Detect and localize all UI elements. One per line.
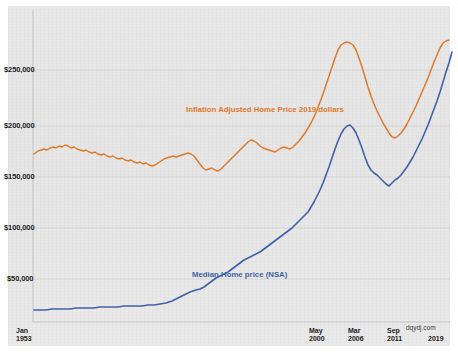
x-tick-jan-month: Jan [16, 327, 32, 335]
series-label-inflation-line2: 2019 dollars [299, 105, 344, 114]
y-tick-100000: $100,000 [4, 223, 34, 232]
chart-svg [0, 0, 458, 352]
x-tick-mar-2006: Mar 2006 [348, 327, 364, 343]
series-label-inflation-line1: Inflation Adjusted Home Price [186, 105, 297, 114]
series-label-median-home-price: Median Home price (NSA) [192, 270, 287, 280]
watermark-dqydj: dqydj.com [406, 324, 436, 331]
x-tick-jan-year: 1953 [16, 335, 32, 343]
gridlines [33, 70, 450, 279]
x-tick-mar-month: Mar [348, 327, 364, 335]
chart-container: $250,000 $200,000 $150,000 $100,000 $50,… [0, 0, 458, 352]
y-tick-50000: $50,000 [7, 274, 33, 283]
y-tick-150000: $150,000 [4, 172, 34, 181]
x-tick-may-month: May [309, 327, 325, 335]
y-tick-200000: $200,000 [4, 121, 34, 130]
x-tick-sep-year: 2011 [387, 335, 402, 343]
x-tick-mar-year: 2006 [348, 335, 364, 343]
x-tick-may-year: 2000 [309, 335, 325, 343]
x-tick-sep-month: Sep [387, 327, 402, 335]
x-tick-jan-1953: Jan 1953 [16, 327, 32, 343]
x-tick-2019: 2019 [428, 335, 444, 343]
x-tick-2019-year: 2019 [428, 335, 444, 343]
x-tick-sep-2011: Sep 2011 [387, 327, 402, 343]
y-tick-250000: $250,000 [4, 65, 34, 74]
series-label-inflation-adjusted: Inflation Adjusted Home Price 2019 dolla… [186, 105, 344, 115]
x-tick-may-2000: May 2000 [309, 327, 325, 343]
